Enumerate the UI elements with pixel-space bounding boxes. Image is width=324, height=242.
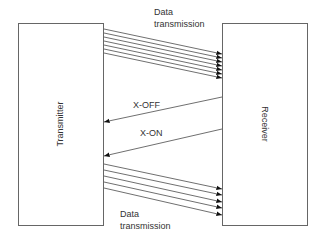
- bottom-data-label-line1: Data: [120, 209, 139, 219]
- flow-control-diagram: Transmitter Receiver Data transmission X…: [0, 0, 324, 242]
- top-data-label-line2: transmission: [154, 19, 205, 29]
- bottom-data-label-line2: transmission: [120, 221, 171, 231]
- receiver-label: Receiver: [260, 106, 270, 142]
- x-off-arrow: [104, 97, 222, 122]
- x-on-label: X-ON: [140, 128, 163, 138]
- top-data-arrows: [104, 29, 222, 78]
- bottom-data-arrows: [104, 164, 222, 215]
- x-on-arrow: [104, 129, 222, 156]
- top-data-label-line1: Data: [154, 7, 173, 17]
- x-off-label: X-OFF: [133, 100, 160, 110]
- transmitter-label: Transmitter: [55, 101, 65, 146]
